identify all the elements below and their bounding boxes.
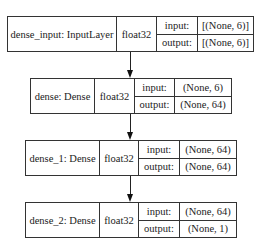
arrow-head-icon [127,70,133,78]
node-dense-2: dense_2: Dense float32 input: output: (N… [25,202,237,238]
input-shape: (None, 64) [180,141,236,159]
input-label: input: [135,79,174,97]
output-label: output: [139,159,179,176]
node-dense-input: dense_input: InputLayer float32 input: o… [7,16,254,52]
input-label: input: [157,17,197,35]
layer-dtype: float32 [100,141,139,175]
output-shape: (None, 64) [180,159,236,176]
arrow-head-icon [127,194,133,202]
node-dense: dense: Dense float32 input: output: (Non… [30,78,232,114]
layer-dtype: float32 [117,17,157,51]
edge-2-3 [130,176,131,195]
layer-dtype: float32 [95,79,135,113]
output-shape: [(None, 6)] [198,35,253,52]
layer-dtype: float32 [100,203,139,237]
layer-name: dense_2: Dense [26,203,100,237]
output-label: output: [157,35,197,52]
layer-name: dense: Dense [31,79,95,113]
arrow-head-icon [127,132,133,140]
output-shape: (None, 1) [180,221,236,238]
output-label: output: [139,221,179,238]
layer-name: dense_1: Dense [26,141,100,175]
input-label: input: [139,141,179,159]
input-shape: (None, 6) [175,79,231,97]
node-dense-1: dense_1: Dense float32 input: output: (N… [25,140,237,176]
input-shape: (None, 64) [180,203,236,221]
edge-0-1 [130,52,131,71]
edge-1-2 [130,114,131,133]
input-shape: [(None, 6)] [198,17,253,35]
output-shape: (None, 64) [175,97,231,114]
output-label: output: [135,97,174,114]
input-label: input: [139,203,179,221]
layer-name: dense_input: InputLayer [8,17,117,51]
